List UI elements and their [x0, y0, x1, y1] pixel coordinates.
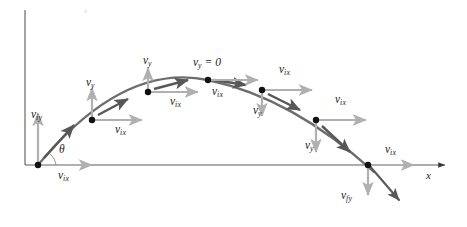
resultant-arrow-rise-2 [154, 80, 188, 89]
label-v-y-fall-1: vy [253, 105, 262, 118]
scan-artifact [84, 10, 87, 13]
label-v-ix-rise-2: vix [170, 96, 181, 109]
resultant-arrow-fall-2 [322, 126, 350, 152]
trajectory-tail [368, 164, 399, 200]
label-v-y-fall-2: vy [305, 140, 314, 153]
label-v-ix-rise-1: vix [115, 124, 126, 137]
label-v-iy: viy [31, 109, 42, 122]
trajectory-path [38, 77, 374, 172]
point-rise-1 [89, 117, 95, 123]
projectile-motion-figure: viy vix θ vy vix vy vix vy = 0 vix vix v… [0, 0, 467, 227]
point-apex [205, 77, 211, 83]
point-launch [35, 162, 41, 168]
label-v-ix-fall-2: vix [335, 94, 346, 107]
point-rise-2 [145, 89, 151, 95]
label-x-axis: x [426, 170, 431, 181]
label-theta: θ [59, 144, 65, 156]
trajectory-points [35, 77, 371, 168]
point-fall-1 [259, 87, 265, 93]
label-v-ix-fall-1: vix [279, 64, 290, 77]
point-fall-2 [313, 117, 319, 123]
label-v-ix-landing: vix [385, 144, 396, 157]
point-landing [365, 162, 371, 168]
projectile-diagram-svg [0, 0, 467, 227]
label-v-ix-apex: vix [212, 86, 223, 99]
label-vy-zero-apex: vy = 0 [193, 57, 221, 70]
components-fall-2 [316, 120, 366, 152]
resultant-arrow-rise-1 [98, 99, 128, 115]
label-v-y-rise-2: vy [143, 55, 152, 68]
label-v-y-rise-1: vy [86, 77, 95, 90]
theta-arc [50, 154, 56, 165]
label-v-fy: vfy [341, 190, 352, 203]
label-v-ix-launch: vix [58, 170, 69, 183]
